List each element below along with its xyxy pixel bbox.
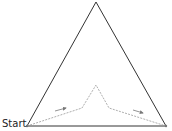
- arrow-icon-right: [133, 110, 143, 113]
- arrow-icon-left: [55, 108, 66, 111]
- dashed-path: [27, 85, 166, 126]
- start-label: Start: [2, 118, 26, 130]
- triangle-outline: [27, 2, 166, 126]
- triangle-diagram: [0, 0, 172, 131]
- end-point: [165, 125, 167, 127]
